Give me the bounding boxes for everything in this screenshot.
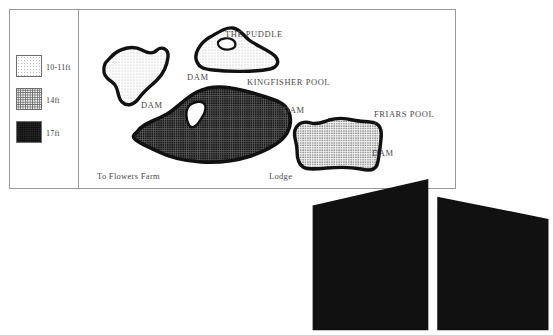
pool-kingfisher [133,87,290,162]
swatch-17ft [16,121,42,143]
legend-label-17ft: 17ft [46,129,60,138]
label-dam-puddle: DAM [187,72,209,82]
pool-friars [294,119,381,170]
swatch-14ft [16,88,42,110]
label-kingfisher-pool: KINGFISHER POOL [247,77,330,87]
label-to-flowers-farm: To Flowers Farm [97,171,160,181]
legend-label-10-11ft: 10-11ft [46,63,71,72]
legend-label-14ft: 14ft [46,96,60,105]
swatch-10-11ft [16,55,42,77]
island-puddle [218,38,236,49]
legend-item: 14ft [16,88,76,115]
legend-item: 10-11ft [16,55,76,82]
label-the-puddle: THE PUDDLE [225,29,283,39]
label-dam-west: DAM [141,100,163,110]
legend-item: 17ft [16,121,76,148]
map-figure: 10-11ft 14ft 17ft [0,0,466,199]
map-canvas: THE PUDDLE KINGFISHER POOL FRIARS POOL D… [79,10,455,188]
label-lodge: Lodge [269,171,292,181]
depth-legend: 10-11ft 14ft 17ft [16,55,76,154]
label-dam-kingfisher: DAM [283,105,305,115]
label-dam-friars: DAM [372,148,394,158]
building-icon [247,170,553,335]
pool-unnamed [104,48,168,105]
label-friars-pool: FRIARS POOL [374,109,434,119]
